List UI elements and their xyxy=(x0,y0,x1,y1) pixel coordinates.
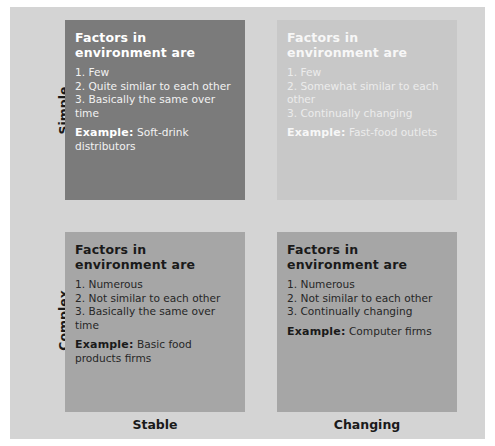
factor-item: 1. Few xyxy=(287,66,449,80)
example: Example: Soft-drink distributors xyxy=(75,126,237,153)
factor-item: 3. Continually changing xyxy=(287,107,449,121)
factor-item: 2. Not similar to each other xyxy=(287,292,449,306)
factor-list: 1. Numerous 2. Not similar to each other… xyxy=(287,278,449,319)
column-label-changing: Changing xyxy=(277,417,457,432)
factor-item: 3. Continually changing xyxy=(287,305,449,319)
factor-item: 1. Numerous xyxy=(287,278,449,292)
example: Example: Computer firms xyxy=(287,325,449,339)
factor-item: 1. Few xyxy=(75,66,237,80)
example-label: Example: xyxy=(75,126,134,139)
factor-list: 1. Numerous 2. Not similar to each other… xyxy=(75,278,237,332)
example: Example: Basic food products firms xyxy=(75,338,237,365)
example-label: Example: xyxy=(75,338,134,351)
factor-item: 3. Basically the same over time xyxy=(75,93,237,120)
factor-item: 3. Basically the same over time xyxy=(75,305,237,332)
cell-complex-changing: Factors in environment are 1. Numerous 2… xyxy=(277,232,457,412)
column-label-stable: Stable xyxy=(65,417,245,432)
cell-complex-stable: Factors in environment are 1. Numerous 2… xyxy=(65,232,245,412)
cell-heading: Factors in environment are xyxy=(287,242,449,272)
example-text: Computer firms xyxy=(346,325,432,337)
factor-item: 1. Numerous xyxy=(75,278,237,292)
cell-heading: Factors in environment are xyxy=(75,30,237,60)
cell-simple-changing: Factors in environment are 1. Few 2. Som… xyxy=(277,20,457,200)
factor-list: 1. Few 2. Somewhat similar to each other… xyxy=(287,66,449,120)
factor-item: 2. Somewhat similar to each other xyxy=(287,80,449,107)
cell-simple-stable: Factors in environment are 1. Few 2. Qui… xyxy=(65,20,245,200)
cell-heading: Factors in environment are xyxy=(287,30,449,60)
factor-list: 1. Few 2. Quite similar to each other 3.… xyxy=(75,66,237,120)
example-label: Example: xyxy=(287,325,346,338)
example-label: Example: xyxy=(287,126,346,139)
example: Example: Fast-food outlets xyxy=(287,126,449,140)
example-text: Fast-food outlets xyxy=(346,126,438,138)
cell-heading: Factors in environment are xyxy=(75,242,237,272)
factor-item: 2. Quite similar to each other xyxy=(75,80,237,94)
factor-item: 2. Not similar to each other xyxy=(75,292,237,306)
